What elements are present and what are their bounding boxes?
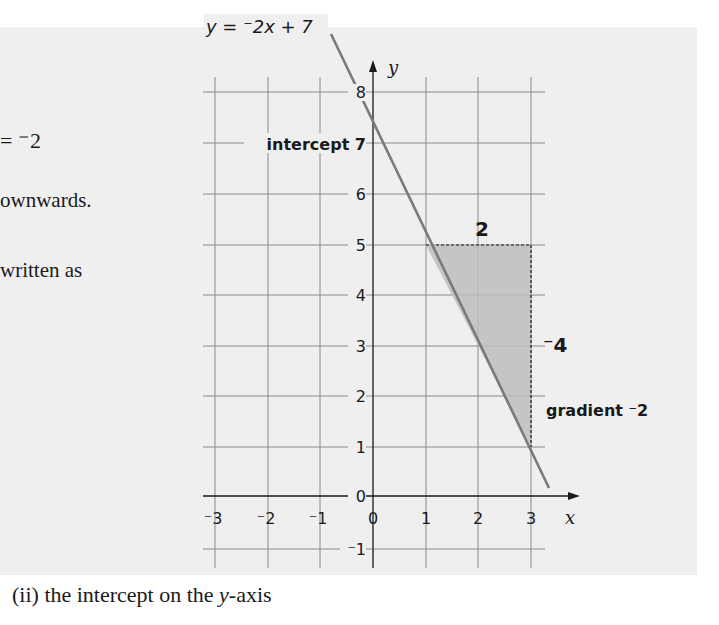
y-tick-labels: 8 6 5 4 3 2 1 0 ⁻1	[340, 83, 366, 559]
svg-text:⁻1: ⁻1	[347, 540, 366, 559]
svg-text:⁻1: ⁻1	[309, 509, 328, 528]
gradient-label: gradient ⁻2	[546, 401, 648, 420]
svg-text:⁻2: ⁻2	[257, 509, 276, 528]
rise-label: ⁻4	[543, 333, 567, 357]
svg-text:8: 8	[356, 83, 366, 102]
question-caption: (ii) the intercept on the y-axis	[12, 582, 272, 608]
y-axis-label: y	[387, 57, 399, 78]
graph-svg: 8 6 5 4 3 2 1 0 ⁻1 ⁻3 ⁻2 ⁻1 0 1 2 3 x y …	[0, 0, 719, 625]
x-axis-label: x	[565, 507, 575, 528]
svg-text:0: 0	[368, 509, 378, 528]
svg-text:0: 0	[356, 487, 366, 506]
y-axis-arrow-icon	[369, 60, 377, 72]
svg-text:6: 6	[356, 185, 366, 204]
intercept-label: intercept 7	[267, 135, 366, 154]
svg-text:1: 1	[356, 438, 366, 457]
run-label: 2	[475, 217, 489, 241]
svg-text:3: 3	[526, 509, 536, 528]
svg-text:2: 2	[356, 387, 366, 406]
svg-text:5: 5	[356, 236, 366, 255]
svg-text:3: 3	[356, 337, 366, 356]
svg-text:⁻3: ⁻3	[204, 509, 223, 528]
x-tick-labels: ⁻3 ⁻2 ⁻1 0 1 2 3	[204, 509, 536, 528]
equation-label: y = ⁻2x + 7	[205, 16, 313, 37]
caption-prefix: (ii) the intercept on the	[12, 582, 219, 607]
x-axis-arrow-icon	[568, 492, 580, 500]
svg-text:2: 2	[473, 509, 483, 528]
svg-text:1: 1	[421, 509, 431, 528]
caption-suffix: -axis	[229, 582, 272, 607]
svg-text:4: 4	[356, 286, 366, 305]
caption-italic-y: y	[219, 582, 229, 607]
